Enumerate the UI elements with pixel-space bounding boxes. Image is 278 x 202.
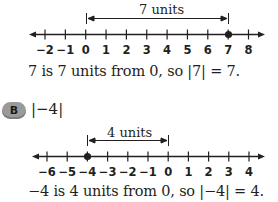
number-line-a-tick-label: 0 bbox=[82, 43, 90, 57]
number-line-a-tick-label: 8 bbox=[244, 43, 252, 57]
number-line-a: −2−1012345678 bbox=[0, 0, 278, 60]
number-line-b-tick-label: 3 bbox=[225, 165, 233, 179]
number-line-b-tick-label: 4 bbox=[245, 165, 253, 179]
number-line-a-tick-label: 5 bbox=[183, 43, 191, 57]
number-line-b-tick-label: −4 bbox=[79, 165, 97, 179]
number-line-b-tick-label: −3 bbox=[99, 165, 117, 179]
distance-bracket-b bbox=[88, 135, 169, 146]
number-line-b: −6−5−4−3−2−101234 bbox=[0, 120, 278, 182]
distance-bracket-a bbox=[87, 13, 229, 24]
number-line-a-tick-label: 4 bbox=[163, 43, 171, 57]
example-b-badge: B bbox=[2, 102, 26, 119]
highlighted-point-b bbox=[84, 153, 91, 160]
number-line-b-tick-label: 1 bbox=[184, 165, 192, 179]
explanation-b: −4 is 4 units from 0, so |−4| = 4. bbox=[28, 183, 264, 199]
example-b-expression: |−4| bbox=[31, 100, 63, 118]
number-line-a-tick-label: 7 bbox=[224, 43, 232, 57]
number-line-a-tick-label: 3 bbox=[143, 43, 151, 57]
number-line-b-tick-label: −1 bbox=[139, 165, 157, 179]
number-line-a-tick-label: −1 bbox=[57, 43, 75, 57]
number-line-b-tick-label: −5 bbox=[58, 165, 76, 179]
number-line-a-tick-label: −2 bbox=[36, 43, 54, 57]
number-line-b-tick-label: −6 bbox=[38, 165, 56, 179]
number-line-a-tick-label: 6 bbox=[204, 43, 212, 57]
number-line-a-tick-label: 2 bbox=[122, 43, 130, 57]
highlighted-point-a bbox=[225, 31, 232, 38]
number-line-b-tick-label: −2 bbox=[119, 165, 137, 179]
number-line-b-tick-label: 2 bbox=[205, 165, 213, 179]
number-line-a-tick-label: 1 bbox=[102, 43, 110, 57]
number-line-b-tick-label: 0 bbox=[164, 165, 172, 179]
explanation-a: 7 is 7 units from 0, so |7| = 7. bbox=[28, 63, 240, 79]
